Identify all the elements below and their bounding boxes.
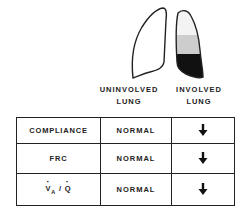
down-arrow-icon — [198, 152, 208, 164]
property-cell: COMPLIANCE — [17, 118, 101, 144]
involved-lung-label-line2: LUNG — [172, 96, 226, 108]
down-arrow-icon — [198, 124, 208, 136]
involved-lung-label: INVOLVED LUNG — [172, 84, 226, 108]
involved-value-cell — [172, 118, 235, 144]
involved-lung-drawing — [170, 5, 210, 84]
involved-value-cell — [172, 174, 235, 206]
involved-lung-label-line1: INVOLVED — [172, 84, 226, 96]
lung-properties-table: COMPLIANCE NORMAL FRC NORMAL VA / Q NORM… — [16, 117, 235, 206]
table-row-compliance: COMPLIANCE NORMAL — [17, 118, 235, 144]
down-arrow-icon — [198, 183, 208, 195]
property-cell: VA / Q — [17, 174, 101, 206]
ratio-separator: / — [56, 184, 65, 193]
lung-illustrations — [0, 0, 247, 85]
uninvolved-lung-label-line2: LUNG — [96, 96, 162, 108]
q-symbol: Q — [65, 184, 72, 193]
uninvolved-value-cell: NORMAL — [101, 144, 172, 174]
uninvolved-lung-drawing — [132, 8, 166, 78]
uninvolved-value-cell: NORMAL — [101, 118, 172, 144]
uninvolved-value-cell: NORMAL — [101, 174, 172, 206]
property-cell: FRC — [17, 144, 101, 174]
involved-value-cell — [172, 144, 235, 174]
table-row-va-q: VA / Q NORMAL — [17, 174, 235, 206]
uninvolved-lung-label-line1: UNINVOLVED — [96, 84, 162, 96]
va-symbol: V — [46, 184, 52, 193]
uninvolved-lung-label: UNINVOLVED LUNG — [96, 84, 162, 108]
table-row-frc: FRC NORMAL — [17, 144, 235, 174]
